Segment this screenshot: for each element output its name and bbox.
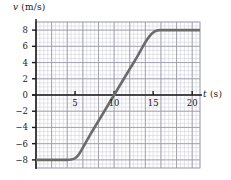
y-tick-label: 6 [12,41,28,51]
plot-area [0,0,231,180]
y-tick-label: −6 [12,139,28,149]
y-axis-unit: (m/s) [21,2,45,12]
y-tick-label: −4 [12,122,28,132]
y-tick-label: 8 [12,25,28,35]
x-tick-label: 5 [68,98,82,108]
y-tick-label: 0 [12,90,28,100]
x-tick-label: 10 [107,98,121,108]
x-tick-label: 15 [146,98,160,108]
x-axis-label: t (s) [203,89,222,99]
y-tick-label: −2 [12,106,28,116]
y-tick-label: −8 [12,155,28,165]
y-tick-label: 4 [12,58,28,68]
x-tick-label: 20 [185,98,199,108]
y-axis-label: v (m/s) [13,2,46,12]
x-axis-unit: (s) [210,89,222,99]
velocity-time-graph-figure: v (m/s) t (s) −8−6−4−202468 5101520 [0,0,231,180]
y-tick-label: 2 [12,74,28,84]
